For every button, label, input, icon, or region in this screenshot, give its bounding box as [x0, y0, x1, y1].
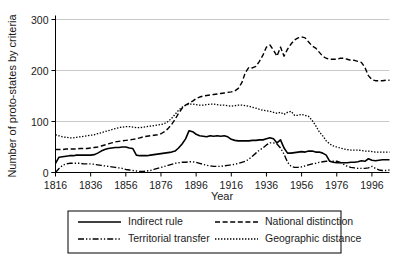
legend-label-indirect-rule: Indirect rule — [128, 215, 183, 227]
y-axis-tick-labels: 0100200300 — [31, 14, 56, 179]
series-line-national-distinction — [56, 37, 390, 150]
x-tick-label-1856: 1856 — [114, 179, 138, 191]
y-tick-label-300: 300 — [31, 14, 49, 26]
y-tick-label-200: 200 — [31, 65, 49, 77]
y-tick-label-0: 0 — [43, 167, 49, 179]
x-tick-label-1876: 1876 — [149, 179, 173, 191]
series-line-indirect-rule — [56, 131, 390, 164]
x-tick-label-1896: 1896 — [184, 179, 208, 191]
x-tick-label-1956: 1956 — [290, 179, 314, 191]
x-axis-ticks — [56, 173, 372, 177]
legend-label-geographic-distance: Geographic distance — [265, 232, 361, 244]
legend-label-national-distinction: National distinction — [265, 215, 353, 227]
y-axis-label: Number of proto-states by criteria — [6, 14, 18, 178]
x-axis-label: Year — [211, 190, 234, 202]
x-tick-label-1936: 1936 — [255, 179, 279, 191]
x-axis-tick-labels: 1816183618561876189619161936195619761996 — [44, 179, 384, 191]
chart-figure: 0100200300 18161836185618761896191619361… — [0, 0, 409, 259]
chart-plot-area: 0100200300 18161836185618761896191619361… — [0, 0, 409, 259]
gridlines — [56, 20, 390, 122]
data-series-group — [56, 37, 390, 173]
x-tick-label-1996: 1996 — [360, 179, 384, 191]
chart-legend: Indirect ruleNational distinctionTerrito… — [68, 211, 361, 253]
y-tick-label-100: 100 — [31, 116, 49, 128]
x-tick-label-1836: 1836 — [79, 179, 103, 191]
legend-label-territorial-transfer: Territorial transfer — [128, 232, 210, 244]
x-tick-label-1816: 1816 — [44, 179, 68, 191]
x-tick-label-1916: 1916 — [220, 179, 244, 191]
x-tick-label-1976: 1976 — [325, 179, 349, 191]
